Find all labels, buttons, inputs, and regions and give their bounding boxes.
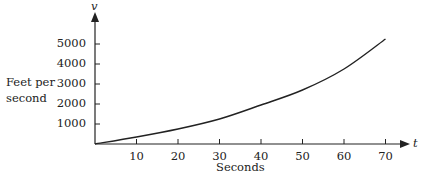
x-tick-label: 20 bbox=[163, 149, 193, 163]
x-tick-marks bbox=[137, 139, 386, 144]
y-tick-label: 4000 bbox=[52, 56, 86, 70]
y-axis-label-line1: Feet per bbox=[6, 74, 55, 90]
y-tick-label: 2000 bbox=[52, 96, 86, 110]
x-tick-label: 70 bbox=[371, 149, 401, 163]
y-tick-label: 1000 bbox=[52, 116, 86, 130]
x-tick-label: 60 bbox=[329, 149, 359, 163]
y-tick-label: 5000 bbox=[52, 36, 86, 50]
y-axis-arrow-icon bbox=[91, 12, 99, 22]
y-tick-marks bbox=[95, 44, 100, 124]
y-axis-label: Feet per second bbox=[6, 74, 55, 106]
x-tick-label: 50 bbox=[288, 149, 318, 163]
y-axis-label-line2: second bbox=[6, 90, 55, 106]
x-axis-symbol: t bbox=[413, 136, 418, 150]
y-tick-label: 3000 bbox=[52, 76, 86, 90]
y-axis-symbol: v bbox=[91, 0, 98, 13]
x-tick-label: 10 bbox=[122, 149, 152, 163]
x-axis-arrow-icon bbox=[400, 140, 410, 148]
x-axis-label: Seconds bbox=[216, 160, 265, 174]
velocity-curve bbox=[95, 39, 386, 144]
